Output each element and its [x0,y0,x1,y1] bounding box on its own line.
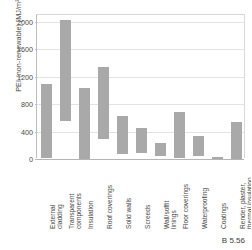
x-label-render-plaster-thermal-insulation: Render, plaster, thermal insulation [239,159,252,229]
chart-figure: PEI (non-renewable) [MJ/m²] 040080012001… [0,0,251,250]
bar-transparent-components [60,20,71,121]
x-label-screeds: Screeds [144,159,151,229]
x-label-waterproofing: Waterproofing [201,159,208,229]
y-tick-label-2000: 2000 [17,17,37,26]
y-tick-label-1200: 1200 [17,72,37,81]
bar-floor-coverings [174,112,185,159]
bar-insulation [79,88,90,159]
bar-solid-walls [117,116,128,154]
x-label-wall-soffit-linings: Wall/soffit linings [163,159,178,229]
y-tick-label-800: 800 [21,100,37,109]
bar-screeds [136,128,147,153]
x-axis-labels: External claddingTransparent componentsI… [36,159,245,231]
bar-render-plaster-thermal-insulation [231,122,242,159]
y-tick-label-400: 400 [21,127,37,136]
bar-external-cladding [41,84,52,157]
x-label-floor-coverings: Floor coverings [182,159,189,229]
x-label-coatings: Coatings [220,159,227,229]
bar-wall-soffit-linings [155,143,166,155]
x-label-roof-coverings: Roof coverings [106,159,113,229]
bar-waterproofing [193,136,204,156]
bar-series [37,15,244,158]
x-label-insulation: Insulation [87,159,94,229]
bar-roof-coverings [98,67,109,139]
y-tick-label-1600: 1600 [17,45,37,54]
x-label-external-cladding: External cladding [49,159,64,229]
plot-area: 0400800120016002000 [36,14,245,158]
figure-caption: B 5.56 [222,236,245,245]
x-label-transparent-components: Transparent components [68,159,83,229]
x-label-solid-walls: Solid walls [125,159,132,229]
